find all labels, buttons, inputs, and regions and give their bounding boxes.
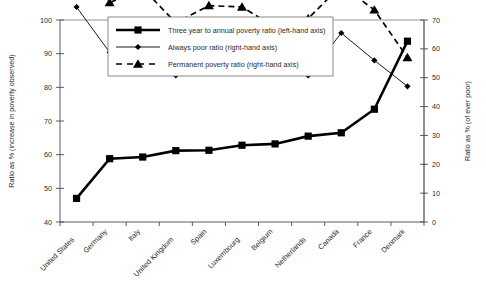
left-axis-tick-label: 40: [44, 218, 52, 227]
legend-entry-label: Three year to annual poverty ratio (left…: [168, 26, 325, 35]
data-point: [404, 38, 411, 45]
x-axis-category-label: Belgium: [249, 227, 274, 252]
data-point: [371, 106, 378, 113]
right-axis-tick-label: 30: [432, 131, 440, 140]
x-axis-category-label: France: [351, 227, 374, 250]
x-axis-category-label: United Kingdom: [132, 235, 176, 279]
data-point: [73, 4, 79, 10]
right-axis-tick-label: 60: [432, 44, 440, 53]
data-point: [73, 195, 80, 202]
x-axis-category-label: Italy: [126, 227, 142, 243]
x-axis-category-label: Spain: [189, 227, 209, 247]
data-point: [369, 5, 379, 13]
data-point: [271, 140, 278, 147]
data-point: [205, 147, 212, 154]
x-axis-category-label: United States: [38, 235, 76, 273]
left-axis-tick-label: 100: [40, 16, 52, 25]
right-axis-tick-label: 0: [432, 218, 436, 227]
x-axis-category-label: Luxembourg: [206, 235, 241, 270]
right-axis-tick-label: 50: [432, 73, 440, 82]
right-axis-tick-label: 70: [432, 16, 440, 25]
legend-sample-marker: [134, 26, 141, 33]
legend-entry-label: Permanent poverty ratio (right-hand axis…: [168, 60, 299, 69]
x-axis-category-label: Denmark: [379, 227, 407, 255]
x-axis-category-label: Canada: [316, 226, 341, 251]
right-axis-title: Ratio as % (of ever poor): [463, 81, 472, 161]
left-axis-tick-label: 80: [44, 83, 52, 92]
left-axis-tick-label: 60: [44, 150, 52, 159]
x-axis-category-label: Germany: [81, 227, 109, 255]
data-point: [305, 133, 312, 140]
left-axis-tick-label: 50: [44, 184, 52, 193]
left-axis-tick-label: 70: [44, 117, 52, 126]
poverty-ratio-line-chart: 405060708090100010203040506070Ratio as %…: [0, 0, 486, 297]
right-axis-tick-label: 20: [432, 160, 440, 169]
data-point: [172, 147, 179, 154]
chart-container: 405060708090100010203040506070Ratio as %…: [0, 0, 486, 297]
left-axis-tick-label: 90: [44, 49, 52, 58]
left-axis-title: Ratio as % (increase in poverty observed…: [7, 54, 16, 187]
data-point: [238, 142, 245, 149]
x-axis-category-label: Netherlands: [273, 235, 308, 270]
data-point: [338, 129, 345, 136]
data-point: [402, 53, 412, 61]
data-point: [106, 155, 113, 162]
legend-entry-label: Always poor ratio (right-hand axis): [168, 43, 277, 52]
right-axis-tick-label: 40: [432, 102, 440, 111]
right-axis-tick-label: 10: [432, 189, 440, 198]
data-point: [139, 153, 146, 160]
